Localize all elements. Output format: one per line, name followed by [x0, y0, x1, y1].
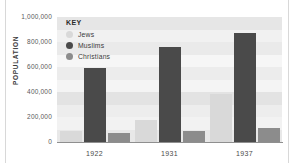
legend-entries: JewsMuslimsChristians [66, 29, 110, 62]
y-tick-label: 400,000 [8, 88, 52, 95]
frame-left-rule [5, 0, 6, 163]
legend-label: Muslims [78, 42, 104, 49]
bar-christians-1931 [183, 131, 205, 142]
legend-label: Jews [78, 31, 94, 38]
bar-muslims-1922 [84, 68, 106, 142]
x-axis-line [57, 142, 283, 143]
x-tick-label: 1937 [225, 150, 265, 157]
legend-swatch-icon [66, 53, 73, 60]
y-tick-label: 1,000,000 [8, 13, 52, 20]
legend-item-christians: Christians [66, 51, 110, 62]
bar-muslims-1931 [159, 47, 181, 142]
y-axis-ticks: 0200,000400,000600,000800,0001,000,000 [8, 0, 52, 163]
bar-muslims-1937 [234, 33, 256, 142]
bar-jews-1931 [135, 120, 157, 142]
x-tick-label: 1922 [75, 150, 115, 157]
y-tick-label: 0 [8, 138, 52, 145]
bar-jews-1922 [60, 131, 82, 142]
y-tick-label: 200,000 [8, 113, 52, 120]
legend-item-muslims: Muslims [66, 40, 110, 51]
x-tick-label: 1931 [150, 150, 190, 157]
frame-right-rule [288, 0, 289, 163]
legend-swatch-icon [66, 42, 73, 49]
legend-swatch-icon [66, 31, 73, 38]
bar-christians-1922 [108, 133, 130, 142]
y-tick-label: 800,000 [8, 38, 52, 45]
chart-legend: KEY JewsMuslimsChristians [66, 19, 110, 62]
legend-label: Christians [78, 53, 110, 60]
chart-figure: POPULATION 0200,000400,000600,000800,000… [0, 0, 292, 163]
y-tick-label: 600,000 [8, 63, 52, 70]
legend-item-jews: Jews [66, 29, 110, 40]
bar-christians-1937 [258, 128, 280, 142]
legend-title: KEY [66, 19, 110, 26]
bar-jews-1937 [210, 94, 232, 142]
